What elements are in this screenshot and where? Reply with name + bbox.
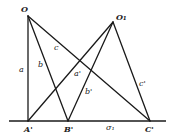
segment-c-prime <box>113 22 150 121</box>
projection-diagram: O O₁ A' B' C' a b c a' b' c' σ₁ <box>0 0 173 136</box>
baseline-label-sigma1: σ₁ <box>106 123 115 132</box>
segment-label-b: b <box>38 60 43 69</box>
segment-label-c-prime: c' <box>139 79 146 88</box>
segment-c <box>28 16 150 121</box>
point-label-c-prime: C' <box>145 124 154 134</box>
point-label-a-prime: A' <box>23 124 33 134</box>
point-label-b-prime: B' <box>63 124 73 134</box>
point-label-o1: O₁ <box>116 12 126 22</box>
segment-label-a-prime: a' <box>74 69 81 78</box>
segment-b <box>28 16 68 121</box>
point-label-o: O <box>21 4 28 14</box>
segment-label-a: a <box>19 65 24 74</box>
segment-label-b-prime: b' <box>85 87 92 96</box>
segment-a-prime <box>28 22 113 121</box>
segment-label-c: c <box>54 43 59 52</box>
